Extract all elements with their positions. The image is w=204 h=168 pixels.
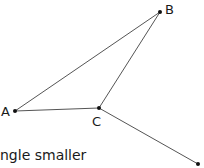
point-c-dot (97, 106, 101, 110)
point-c-label: C (92, 115, 101, 128)
point-b-dot (158, 10, 162, 14)
geometry-diagram (0, 0, 204, 168)
segment-ac (15, 108, 99, 111)
point-a-label: A (1, 105, 10, 118)
point-d-dot (196, 162, 200, 166)
point-b-label: B (165, 3, 174, 16)
segment-ab (15, 12, 160, 111)
caption-text: ngle smaller (0, 148, 86, 162)
segment-bc (99, 12, 160, 108)
segment-cd (99, 108, 198, 164)
point-a-dot (13, 109, 17, 113)
